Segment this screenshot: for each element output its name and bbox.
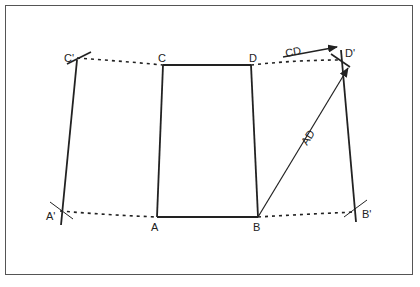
label-c-prime: C' [64, 52, 74, 64]
label-d: D [249, 52, 257, 64]
geometry-diagram: C' C D D' A' A B B' CD AD [0, 0, 420, 287]
path-a-aprime [60, 211, 157, 217]
edge-aprime-cprime [61, 60, 77, 225]
arc-marks [50, 52, 367, 219]
label-d-prime: D' [345, 47, 355, 59]
label-b: B [253, 221, 260, 233]
label-a-prime: A' [46, 210, 55, 222]
edge-ca [157, 65, 163, 217]
label-c: C [158, 52, 166, 64]
label-a: A [151, 221, 159, 233]
path-b-bprime [258, 212, 356, 217]
label-vector-ad: AD [299, 128, 317, 147]
path-d-dprime [251, 60, 340, 65]
label-vector-cd: CD [284, 44, 302, 59]
original-quadrilateral [157, 65, 258, 217]
path-c-cprime [77, 58, 163, 65]
label-b-prime: B' [362, 208, 371, 220]
edge-db [251, 65, 258, 217]
